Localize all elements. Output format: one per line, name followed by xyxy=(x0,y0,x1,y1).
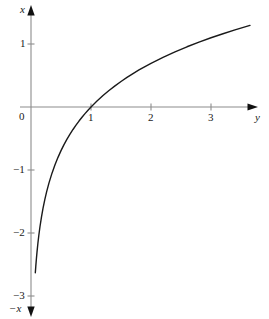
logarithm-graph-figure: x −x y 0 1 2 3 1 −1 −2 −3 xyxy=(0,0,269,319)
vertical-tick-label-minus-2: −2 xyxy=(13,227,25,238)
vertical-tick-label-minus-1: −1 xyxy=(13,164,25,175)
vertical-axis-label: x xyxy=(20,4,25,15)
horizontal-tick-label-3: 3 xyxy=(208,112,214,123)
vertical-axis-negative-label: −x xyxy=(9,303,21,314)
vertical-axis-up-arrow-icon xyxy=(27,5,34,16)
vertical-axis-down-arrow-icon xyxy=(27,307,34,318)
horizontal-tick-label-2: 2 xyxy=(148,112,154,123)
horizontal-axis-right-arrow-icon xyxy=(248,103,259,110)
logarithm-curve xyxy=(35,25,250,272)
vertical-tick-label-minus-3: −3 xyxy=(13,290,25,301)
origin-tick-label: 0 xyxy=(19,111,25,122)
vertical-tick-label-1: 1 xyxy=(20,38,26,49)
horizontal-axis-label: y xyxy=(255,112,260,123)
horizontal-tick-label-1: 1 xyxy=(88,112,94,123)
plot-canvas xyxy=(0,0,269,319)
